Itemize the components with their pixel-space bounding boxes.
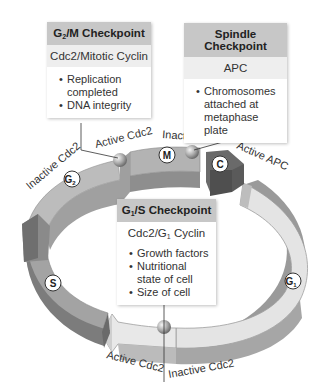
condition-item: Size of cell	[129, 286, 210, 299]
g1s-checkpoint-title: G1/S Checkpoint	[117, 199, 216, 222]
phase-g1: G1	[285, 273, 301, 289]
cdc2-switch-g2m	[113, 153, 127, 167]
condition-item: Nutritional state of cell	[129, 260, 210, 286]
phase-g2: G2	[64, 171, 80, 187]
g1s-checkpoint-box: G1/S Checkpoint Cdc2/G1 Cyclin Growth fa…	[117, 199, 216, 305]
svg-text:C: C	[216, 159, 223, 170]
phase-c: C	[212, 156, 228, 172]
g2m-complex: Cdc2/Mitotic Cyclin	[47, 45, 151, 67]
g1s-conditions: Growth factors Nutritional state of cell…	[117, 245, 216, 305]
spindle-conditions: Chromosomes attached at metaphase plate	[184, 79, 287, 143]
condition-item: Chromosomes attached at metaphase plate	[196, 85, 283, 137]
condition-item: DNA integrity	[59, 99, 145, 112]
phase-m: M	[159, 147, 175, 163]
g1s-complex: Cdc2/G1 Cyclin	[117, 222, 216, 245]
svg-text:S: S	[50, 278, 57, 289]
label-active-cdc2-top: Active Cdc2	[94, 124, 154, 150]
spindle-complex: APC	[184, 57, 287, 79]
g2m-checkpoint-box: G2/M Checkpoint Cdc2/Mitotic Cyclin Repl…	[47, 22, 151, 118]
svg-text:M: M	[163, 150, 171, 161]
spindle-checkpoint-box: Spindle Checkpoint APC Chromosomes attac…	[184, 23, 287, 143]
condition-item: Replication completed	[59, 73, 145, 99]
apc-switch	[185, 145, 199, 159]
g2m-checkpoint-title: G2/M Checkpoint	[47, 22, 151, 45]
c-segment	[206, 150, 244, 196]
g2m-conditions: Replication completed DNA integrity	[47, 67, 151, 118]
phase-s: S	[45, 275, 61, 291]
spindle-checkpoint-title: Spindle Checkpoint	[184, 23, 287, 57]
condition-item: Growth factors	[129, 247, 210, 260]
